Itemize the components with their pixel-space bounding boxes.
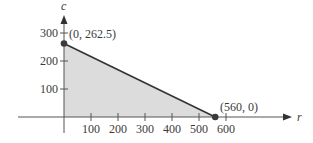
svg-text:100: 100 xyxy=(40,82,58,96)
svg-text:600: 600 xyxy=(217,122,235,136)
svg-text:200: 200 xyxy=(109,122,127,136)
x-tick-labels: 100 200 300 400 500 600 xyxy=(82,122,235,136)
svg-text:200: 200 xyxy=(40,54,58,68)
x-axis-label: r xyxy=(297,110,302,124)
svg-text:300: 300 xyxy=(136,122,154,136)
y-axis-label: c xyxy=(61,0,67,13)
line-constraint-chart: r c 100 200 300 400 500 600 100 200 300 … xyxy=(0,0,313,143)
vertex-point-c-intercept xyxy=(61,40,68,47)
y-axis-arrow-icon xyxy=(61,15,68,24)
annotation-r-intercept: (560, 0) xyxy=(220,100,258,114)
svg-text:300: 300 xyxy=(40,26,58,40)
svg-text:500: 500 xyxy=(190,122,208,136)
svg-text:400: 400 xyxy=(163,122,181,136)
annotation-c-intercept: (0, 262.5) xyxy=(69,27,116,41)
svg-text:100: 100 xyxy=(82,122,100,136)
x-axis-arrow-icon xyxy=(283,114,292,121)
vertex-point-r-intercept xyxy=(212,114,219,121)
y-tick-labels: 100 200 300 xyxy=(40,26,58,96)
